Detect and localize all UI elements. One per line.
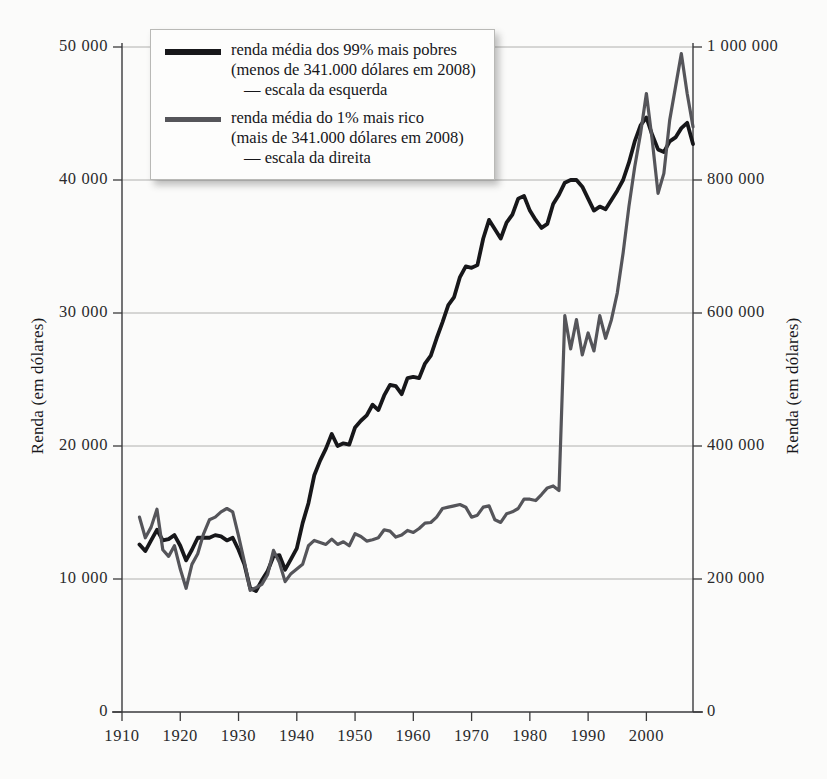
y-tick-label-left: 50 000 [59,36,108,56]
legend-entry: renda média dos 99% mais pobres(menos de… [163,40,484,99]
y-tick-label-left: 0 [99,701,108,721]
y-tick-label-left: 10 000 [59,568,108,588]
y-tick-label-right: 800 000 [707,169,765,189]
y-tick-label-left: 20 000 [59,435,108,455]
legend-swatch-1-percent [165,117,221,122]
chart-legend: renda média dos 99% mais pobres(menos de… [150,29,495,180]
y-tick-label-left: 40 000 [59,169,108,189]
legend-label-line: — escala da direita [231,148,464,168]
legend-label-line: renda média do 1% mais rico [231,108,464,128]
legend-entry: renda média do 1% mais rico(mais de 341.… [163,108,484,167]
y-tick-label-right: 600 000 [707,302,765,322]
legend-label: renda média do 1% mais rico(mais de 341.… [231,108,464,167]
chart-figure: Renda (em dólares) Renda (em dólares) 01… [0,0,827,779]
y-tick-label-right: 200 000 [707,568,765,588]
y-tick-label-left: 30 000 [59,302,108,322]
legend-label-line: (mais de 341.000 dólares em 2008) [231,128,464,148]
series-line-99-percent [139,117,693,590]
legend-label: renda média dos 99% mais pobres(menos de… [231,40,476,99]
y-tick-label-right: 0 [707,701,716,721]
legend-label-line: — escala da esquerda [231,80,476,100]
y-tick-label-right: 1 000 000 [707,36,778,56]
legend-label-line: renda média dos 99% mais pobres [231,40,476,60]
x-tick-label: 2000 [606,726,686,746]
y-tick-label-right: 400 000 [707,435,765,455]
legend-label-line: (menos de 341.000 dólares em 2008) [231,60,476,80]
legend-swatch-99-percent [165,49,221,55]
